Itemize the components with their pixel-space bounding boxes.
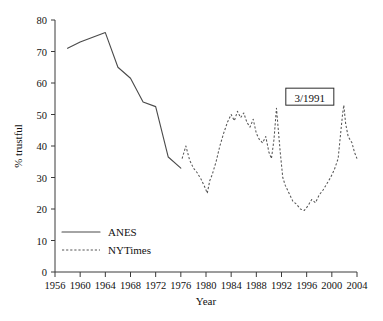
x-tick-label: 1992 — [271, 280, 292, 291]
x-axis: 1956196019641968197219761980198419881992… — [45, 272, 369, 291]
x-tick-label: 1972 — [145, 280, 166, 291]
trust-line-chart: 01020304050607080 1956196019641968197219… — [0, 0, 383, 321]
series-line-anes — [68, 33, 181, 168]
x-tick-label: 1960 — [70, 280, 91, 291]
annotation-label: 3/1991 — [295, 92, 326, 104]
x-tick-label: 1988 — [246, 280, 267, 291]
y-tick-label: 40 — [37, 141, 48, 152]
y-tick-label: 80 — [37, 15, 48, 26]
data-series-group — [68, 33, 357, 211]
x-tick-label: 1984 — [221, 280, 243, 291]
legend-label-anes: ANES — [108, 226, 137, 238]
series-line-nytimes — [182, 105, 357, 211]
x-tick-label: 2004 — [347, 280, 369, 291]
y-tick-label: 20 — [37, 204, 48, 215]
x-tick-label: 2000 — [321, 280, 342, 291]
y-tick-label: 50 — [37, 110, 48, 121]
x-axis-title: Year — [196, 295, 217, 307]
x-tick-label: 1964 — [95, 280, 117, 291]
x-tick-label: 1956 — [45, 280, 66, 291]
y-tick-label: 10 — [37, 236, 48, 247]
y-tick-label: 70 — [37, 47, 48, 58]
x-tick-label: 1976 — [170, 280, 191, 291]
legend: ANES NYTimes — [62, 226, 151, 256]
y-tick-label: 30 — [37, 173, 48, 184]
x-tick-label: 1996 — [296, 280, 317, 291]
chart-container: 01020304050607080 1956196019641968197219… — [0, 0, 383, 321]
x-tick-label: 1980 — [196, 280, 217, 291]
annotation-3-1991: 3/1991 — [286, 88, 334, 105]
x-tick-label: 1968 — [120, 280, 141, 291]
y-tick-label: 0 — [42, 267, 47, 278]
y-axis: 01020304050607080 — [37, 15, 56, 278]
y-axis-title: % trustful — [12, 124, 24, 168]
y-tick-label: 60 — [37, 78, 48, 89]
legend-label-nytimes: NYTimes — [108, 244, 151, 256]
